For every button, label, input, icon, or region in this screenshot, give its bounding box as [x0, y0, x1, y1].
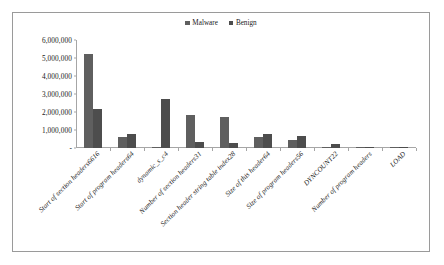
x-axis-category-label: Number of section headers31 [138, 150, 204, 216]
x-axis-category-label: Size of program headers56 [245, 150, 306, 211]
y-axis-tick-label: 2,000,000 [42, 108, 72, 117]
legend-swatch-benign-square-marker [229, 21, 234, 26]
bar-benign [263, 134, 272, 148]
bar-group [76, 40, 110, 148]
bar-group [246, 40, 280, 148]
chart-legend: Malware Benign [13, 19, 429, 27]
bar-benign [127, 134, 136, 148]
x-axis-category-label: DYNCOUNT22 [302, 150, 340, 188]
y-axis-tick-label: 3,000,000 [42, 90, 72, 99]
bar-malware [152, 147, 161, 148]
x-axis-labels: Start of section headers6616Start of pro… [76, 150, 416, 250]
bar-benign [161, 99, 170, 149]
x-axis-category-label: Number of program headers [310, 150, 374, 214]
legend-item-benign: Benign [229, 19, 257, 27]
bar-benign [195, 142, 204, 148]
bar-group [212, 40, 246, 148]
bar-benign [365, 147, 374, 148]
bar-malware [288, 140, 297, 148]
bar-malware [390, 147, 399, 148]
y-axis-tick-label: - [69, 144, 72, 153]
legend-item-malware: Malware [185, 19, 218, 27]
y-axis-tick-label: 5,000,000 [42, 54, 72, 63]
y-axis-tick-label: 6,000,000 [42, 36, 72, 45]
bar-benign [399, 147, 408, 148]
bar-malware [118, 137, 127, 148]
bar-group [314, 40, 348, 148]
bar-benign [331, 144, 340, 148]
bar-benign [93, 109, 102, 148]
bar-group [144, 40, 178, 148]
bar-malware [220, 117, 229, 148]
legend-label-benign: Benign [236, 19, 257, 27]
x-axis-category-label: Start of program headers64 [73, 150, 135, 212]
y-axis-tick-label: 4,000,000 [42, 72, 72, 81]
bar-malware [254, 137, 263, 148]
x-axis-category-label: LOAD [388, 150, 407, 169]
bar-benign [297, 136, 306, 148]
legend-swatch-malware-square-marker [185, 21, 190, 26]
y-axis-tick-label: 1,000,000 [42, 126, 72, 135]
bar-benign [229, 143, 238, 148]
bar-group [348, 40, 382, 148]
bar-malware [186, 115, 195, 148]
x-axis-category-label: Start of section headers6616 [37, 150, 101, 214]
bar-group [178, 40, 212, 148]
x-axis-category-label: dynamic_s_c4 [135, 150, 170, 185]
bar-malware [356, 147, 365, 148]
bar-malware [322, 147, 331, 148]
bar-group [280, 40, 314, 148]
chart-container: Malware Benign -1,000,0002,000,0003,000,… [12, 12, 430, 252]
x-axis-tick-mark [416, 148, 417, 151]
bar-group [110, 40, 144, 148]
bar-malware [84, 54, 93, 148]
bar-group [382, 40, 416, 148]
plot-area: -1,000,0002,000,0003,000,0004,000,0005,0… [76, 40, 416, 148]
legend-label-malware: Malware [192, 19, 218, 27]
